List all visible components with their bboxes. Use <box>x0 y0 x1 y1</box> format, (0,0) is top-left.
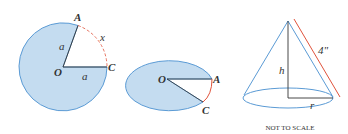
label-x: x <box>99 31 105 43</box>
label-A: A <box>73 11 81 23</box>
label-C: C <box>108 61 116 73</box>
ellipse-sector <box>126 61 212 111</box>
cone-left-edge <box>244 21 288 95</box>
label-slant-height: 4" <box>318 44 329 56</box>
label-C: C <box>202 104 210 116</box>
diagram-canvas: A O C a a x O A C h r 4" NOT TO SCALE <box>0 0 348 134</box>
not-to-scale-note: NOT TO SCALE <box>265 124 314 132</box>
label-h: h <box>279 64 285 76</box>
slant-measure-line <box>294 19 340 97</box>
arc-AC <box>203 79 212 102</box>
label-a-OC: a <box>82 70 88 82</box>
figure-cone: h r 4" NOT TO SCALE <box>243 19 340 132</box>
cone-right-edge <box>288 21 333 97</box>
label-A: A <box>212 73 220 85</box>
label-a-OA: a <box>59 40 65 52</box>
label-O: O <box>158 73 166 85</box>
figure-ellipse-sector: O A C <box>126 61 221 116</box>
figure-circle-sector: A O C a a x <box>19 11 116 111</box>
label-O: O <box>54 66 62 78</box>
label-r: r <box>310 99 315 111</box>
